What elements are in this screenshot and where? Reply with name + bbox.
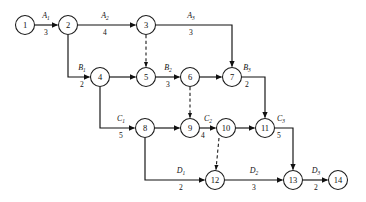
network-diagram: 1 2 3 4 5 6 7 <box>0 0 366 202</box>
edge-label-C2-weight: 4 <box>201 131 205 140</box>
node-1-label: 1 <box>23 20 27 30</box>
edge-label-C1-weight: 5 <box>119 131 123 140</box>
node-11-label: 11 <box>261 123 269 133</box>
edge-label-C1-name: C1 <box>117 114 125 124</box>
node-13-label: 13 <box>289 175 298 185</box>
edge-label-C3-weight: 5 <box>277 131 281 140</box>
node-12-label: 12 <box>211 175 220 185</box>
node-3[interactable]: 3 <box>137 16 156 35</box>
edge-label-A1-weight: 3 <box>44 28 48 37</box>
edge-labels-layer: A1 3 A2 4 A3 3 B1 2 B2 3 <box>41 11 320 192</box>
edge-label-D2-weight: 3 <box>252 183 256 192</box>
node-4[interactable]: 4 <box>91 68 110 87</box>
edge-label-D3-weight: 2 <box>314 183 318 192</box>
node-14[interactable]: 14 <box>329 171 348 190</box>
edge-label-C3-name: C3 <box>277 114 285 124</box>
edge-label-B1-name: B1 <box>78 63 86 73</box>
edge-label-C2-name: C2 <box>204 114 212 124</box>
edge-label-A2-name: A2 <box>100 11 109 21</box>
edge-label-B2-weight: 3 <box>166 80 170 89</box>
edge-label-D1-name: D1 <box>176 166 186 176</box>
edge-label-C3: C3 5 <box>277 114 285 140</box>
edge-label-A2-weight: 4 <box>103 28 107 37</box>
node-5[interactable]: 5 <box>137 68 156 87</box>
node-2-label: 2 <box>66 20 70 30</box>
node-9[interactable]: 9 <box>181 119 200 138</box>
edge-8-12 <box>145 138 205 180</box>
edge-label-D2-name: D2 <box>249 166 259 176</box>
node-8[interactable]: 8 <box>136 119 155 138</box>
node-7-label: 7 <box>230 72 234 82</box>
edge-10-12-dummy <box>216 138 219 170</box>
node-6[interactable]: 6 <box>181 68 200 87</box>
edge-label-B3-name: B3 <box>243 63 251 73</box>
edge-label-B2: B2 3 <box>164 63 172 89</box>
edge-label-A1-name: A1 <box>41 11 50 21</box>
edge-label-A1: A1 3 <box>41 11 50 37</box>
edge-label-D3-name: D3 <box>311 166 321 176</box>
node-1[interactable]: 1 <box>16 16 35 35</box>
nodes-layer: 1 2 3 4 5 6 7 <box>16 16 348 190</box>
node-5-label: 5 <box>144 72 148 82</box>
edges-layer <box>35 25 328 180</box>
node-9-label: 9 <box>188 123 192 133</box>
node-2[interactable]: 2 <box>59 16 78 35</box>
node-12[interactable]: 12 <box>206 171 225 190</box>
node-11[interactable]: 11 <box>256 119 275 138</box>
edge-label-B3-weight: 2 <box>245 80 249 89</box>
edge-label-A3-weight: 3 <box>189 28 193 37</box>
node-6-label: 6 <box>188 72 192 82</box>
edge-3-7 <box>156 25 232 67</box>
edge-label-C2: C2 4 <box>201 114 212 140</box>
node-10[interactable]: 10 <box>217 119 236 138</box>
edge-label-B2-name: B2 <box>164 63 172 73</box>
edge-label-A3: A3 3 <box>186 11 195 37</box>
edge-label-B3: B3 2 <box>243 63 251 89</box>
node-10-label: 10 <box>222 123 231 133</box>
node-13[interactable]: 13 <box>284 171 303 190</box>
edge-label-D1-weight: 2 <box>179 183 183 192</box>
edge-label-A3-name: A3 <box>186 11 195 21</box>
node-7[interactable]: 7 <box>223 68 242 87</box>
edge-label-B1: B1 2 <box>78 63 86 89</box>
node-3-label: 3 <box>144 20 148 30</box>
edge-label-A2: A2 4 <box>100 11 109 37</box>
node-14-label: 14 <box>334 175 343 185</box>
edge-label-D2: D2 3 <box>249 166 259 192</box>
edge-label-D3: D3 2 <box>311 166 321 192</box>
edge-label-D1: D1 2 <box>176 166 186 192</box>
node-8-label: 8 <box>143 123 147 133</box>
edge-label-C1: C1 5 <box>117 114 125 140</box>
edge-label-B1-weight: 2 <box>80 80 84 89</box>
network-diagram-canvas: 1 2 3 4 5 6 7 <box>0 0 366 202</box>
